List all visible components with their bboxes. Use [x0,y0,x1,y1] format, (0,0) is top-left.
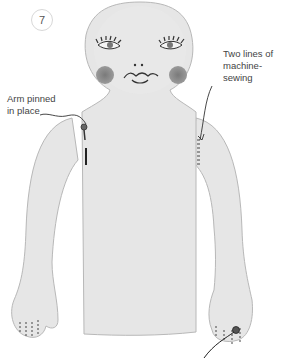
left-cheek [96,66,114,84]
machine-sewing-line1: Two lines of [223,48,283,60]
machine-sewing-callout: Two lines of machine-sewing [223,48,283,84]
machine-stitching [197,140,200,164]
arm-pinned-line2: in place [7,105,56,117]
right-cheek [169,66,187,84]
machine-sewing-line2: machine-sewing [223,60,283,84]
arm-pinned-callout: Arm pinned in place [7,93,56,117]
left-arm [12,118,78,337]
arm-pinned-line1: Arm pinned [7,93,56,105]
